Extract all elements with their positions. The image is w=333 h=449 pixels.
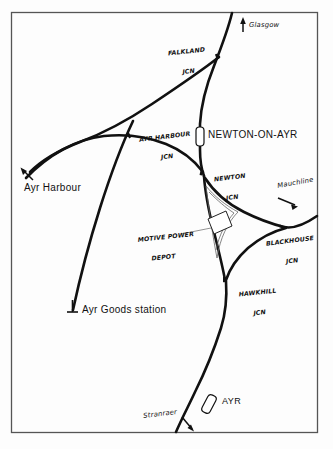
facility-label-motive-power-depot: MOTIVE POWER DEPOT <box>136 219 189 276</box>
station-label-ayr-goods-station: Ayr Goods station <box>82 305 166 316</box>
hawkhill-jcn-marker <box>223 277 226 282</box>
ayr-goods-buffer-stop <box>67 300 78 312</box>
hawkhill-jcn-line1: HAWKHILL <box>235 287 279 298</box>
station-label-newton-on-ayr: NEWTON-ON-AYR <box>208 130 298 141</box>
station-label-ayr: AYR <box>222 397 241 406</box>
newton-on-ayr-station-symbol <box>196 127 204 146</box>
junction-label-hawkhill-jcn: HAWKHILL JCN <box>234 274 283 330</box>
destination-label-ayr-harbour: Ayr Harbour <box>24 183 81 194</box>
junction-label-falkland-jcn: FALKLAND JCN <box>162 33 213 90</box>
newton-jcn-line2: JCN <box>213 192 252 203</box>
junction-label-newton-jcn: NEWTON JCN <box>209 159 253 215</box>
motive-power-depot-line1: MOTIVE POWER <box>137 232 185 243</box>
junction-label-blackhouse-jcn: BLACKHOUSE JCN <box>264 222 318 279</box>
ayr-station-symbol <box>201 393 218 414</box>
rail-line-ayr-goods-branch <box>73 121 133 310</box>
junction-label-ayr-harbour-jcn: AYR HARBOUR JCN <box>137 118 195 176</box>
falkland-jcn-line2: JCN <box>165 66 211 77</box>
motive-power-depot-line2: DEPOT <box>139 251 187 262</box>
destination-label-glasgow: Glasgow <box>249 22 279 29</box>
stranraer-arrow-icon <box>182 417 194 432</box>
ayr-harbour-jcn-line1: AYR HARBOUR <box>139 131 191 144</box>
mauchline-arrow-icon <box>278 198 298 210</box>
railway-diagram: Glasgow FALKLAND JCN AYR HARBOUR JCN NEW… <box>0 0 333 449</box>
ayr-harbour-jcn-line2: JCN <box>141 150 193 163</box>
hawkhill-jcn-line2: JCN <box>237 307 281 318</box>
glasgow-arrow-icon <box>240 17 246 32</box>
newton-jcn-line1: NEWTON <box>211 172 250 183</box>
blackhouse-jcn-line1: BLACKHOUSE <box>266 235 314 247</box>
falkland-jcn-line1: FALKLAND <box>163 46 209 57</box>
blackhouse-jcn-line2: JCN <box>268 254 316 266</box>
